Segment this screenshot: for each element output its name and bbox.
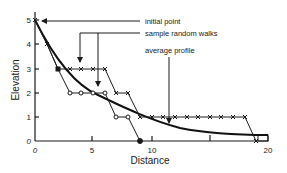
- svg-text:2: 2: [27, 89, 32, 98]
- y-axis-title: Elevation: [10, 59, 21, 100]
- svg-text:0: 0: [33, 146, 38, 155]
- svg-text:20: 20: [264, 146, 273, 155]
- svg-text:1: 1: [27, 113, 32, 122]
- random-walk-b-line: [35, 20, 140, 141]
- average-profile-label: average profile: [145, 46, 195, 55]
- sample-walks-label: sample random walks: [145, 29, 218, 38]
- random-walk-chart: 5 4 3 2 1 0 0 5 10 20 Distance Elevation: [0, 0, 287, 173]
- svg-text:5: 5: [27, 16, 32, 25]
- initial-point-label: initial point: [145, 17, 181, 26]
- svg-text:0: 0: [27, 137, 32, 146]
- y-tick-labels: 5 4 3 2 1 0: [27, 16, 32, 146]
- x-axis-title: Distance: [131, 155, 170, 166]
- x-tick-labels: 0 5 10 20: [33, 146, 273, 155]
- svg-text:10: 10: [148, 146, 157, 155]
- random-walk-a-line: [35, 20, 256, 141]
- svg-text:3: 3: [27, 65, 32, 74]
- svg-text:5: 5: [90, 146, 95, 155]
- svg-text:4: 4: [27, 40, 32, 49]
